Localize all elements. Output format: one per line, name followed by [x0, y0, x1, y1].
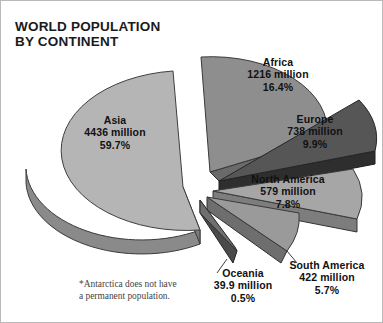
- slice-label-africa-name: Africa: [223, 56, 333, 68]
- slice-label-europe-population: 738 million: [263, 125, 367, 137]
- slice-label-asia-population: 4436 million: [63, 126, 167, 138]
- slice-label-asia: Asia 4436 million 59.7%: [63, 114, 167, 151]
- slice-label-oceania-name: Oceania: [197, 267, 289, 279]
- slice-label-africa-population: 1216 million: [223, 68, 333, 80]
- antarctica-footnote: *Antarctica does not have a permanent po…: [79, 279, 229, 302]
- slice-label-north-america-name: North America: [227, 173, 349, 185]
- slice-label-africa-percent: 16.4%: [223, 81, 333, 93]
- slice-label-europe: Europe 738 million 9.9%: [263, 113, 367, 150]
- world-population-pie-chart-figure: WORLD POPULATION BY CONTINENT: [0, 0, 383, 323]
- pie-slice-asia[interactable]: [26, 71, 200, 254]
- slice-label-africa: Africa 1216 million 16.4%: [223, 56, 333, 93]
- slice-label-north-america-percent: 7.8%: [227, 198, 349, 210]
- slice-label-north-america: North America 579 million 7.8%: [227, 173, 349, 210]
- slice-label-asia-name: Asia: [63, 114, 167, 126]
- slice-label-europe-name: Europe: [263, 113, 367, 125]
- slice-label-europe-percent: 9.9%: [263, 138, 367, 150]
- slice-label-asia-percent: 59.7%: [63, 139, 167, 151]
- slice-label-north-america-population: 579 million: [227, 185, 349, 197]
